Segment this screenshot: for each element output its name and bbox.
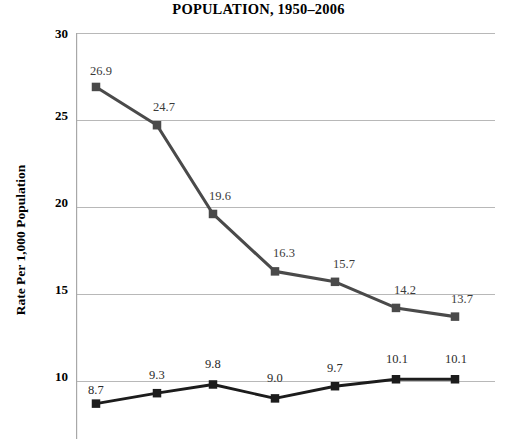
data-point-marker	[331, 278, 340, 287]
data-label: 19.6	[209, 190, 231, 202]
data-point-marker	[331, 382, 340, 391]
chart-title: POPULATION, 1950–2006	[0, 1, 517, 18]
y-tick-label-10: 10	[32, 370, 68, 383]
y-tick-label-25: 25	[32, 109, 68, 122]
y-tick-label-15: 15	[32, 283, 68, 296]
data-label: 9.7	[327, 362, 343, 374]
data-point-marker	[92, 399, 101, 408]
data-label: 9.8	[205, 358, 221, 370]
data-point-marker	[92, 83, 101, 92]
data-label: 16.3	[273, 247, 295, 259]
data-point-marker	[209, 210, 218, 219]
data-label: 13.7	[451, 293, 473, 305]
chart-container: POPULATION, 1950–2006 Rate Per 1,000 Pop…	[0, 0, 517, 439]
plot-svg	[76, 33, 495, 439]
data-label: 15.7	[333, 258, 355, 270]
y-axis-title: Rate Per 1,000 Population	[13, 140, 29, 340]
data-point-marker	[451, 312, 460, 321]
gridlines	[76, 34, 495, 382]
y-tick-label-20: 20	[32, 196, 68, 209]
y-tick-label-30: 30	[32, 27, 68, 40]
data-label: 10.1	[386, 353, 408, 365]
data-point-marker	[392, 304, 401, 313]
data-point-marker	[451, 375, 460, 384]
data-point-marker	[271, 394, 280, 403]
data-label: 26.9	[90, 65, 112, 77]
data-point-marker	[153, 389, 162, 398]
data-label: 10.1	[445, 353, 467, 365]
data-point-marker	[392, 375, 401, 384]
data-label: 24.7	[153, 101, 175, 113]
data-point-marker	[209, 380, 218, 389]
data-label: 14.2	[394, 284, 416, 296]
data-label: 9.0	[267, 372, 283, 384]
data-label: 8.7	[88, 384, 104, 396]
plot-area: 26.924.719.616.315.714.213.78.79.39.89.0…	[76, 33, 495, 439]
data-point-marker	[153, 121, 162, 130]
data-label: 9.3	[149, 369, 165, 381]
data-point-marker	[271, 267, 280, 276]
